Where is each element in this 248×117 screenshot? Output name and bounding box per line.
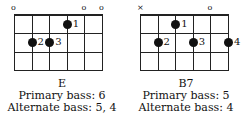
fret-line (14, 52, 103, 53)
finger-number: 1 (181, 19, 187, 29)
fret-line (140, 33, 229, 34)
finger-number: 4 (234, 37, 240, 47)
string-line (102, 15, 103, 70)
finger-number: 1 (73, 19, 79, 29)
fret-line (140, 70, 229, 71)
finger-dot (189, 38, 198, 47)
fret-line (14, 70, 103, 71)
alternate-bass-label: Alternate bass: 5, 4 (0, 102, 124, 114)
nut (140, 14, 229, 16)
finger-dot (28, 38, 37, 47)
nut (14, 14, 103, 16)
finger-dot (63, 20, 72, 29)
chord-e: ooo123 E Primary bass: 6 Alternate bass:… (0, 0, 124, 117)
fret-line (14, 33, 103, 34)
muted-string-icon: × (137, 4, 144, 12)
open-string-icon: o (81, 4, 86, 12)
finger-number: 3 (55, 37, 61, 47)
finger-number: 3 (199, 37, 205, 47)
string-line (140, 15, 141, 70)
open-string-icon: o (11, 4, 16, 12)
finger-number: 2 (38, 37, 44, 47)
finger-dot (45, 38, 54, 47)
string-line (210, 15, 211, 70)
open-string-icon: o (99, 4, 104, 12)
finger-dot (154, 38, 163, 47)
chord-b7: ×o1234 B7 Primary bass: 5 Alternate bass… (124, 0, 248, 117)
alternate-bass-label: Alternate bass: 4 (124, 102, 248, 114)
string-line (14, 15, 15, 70)
finger-dot (171, 20, 180, 29)
open-string-icon: o (207, 4, 212, 12)
string-line (84, 15, 85, 70)
finger-dot (224, 38, 233, 47)
fret-line (140, 52, 229, 53)
finger-number: 2 (164, 37, 170, 47)
